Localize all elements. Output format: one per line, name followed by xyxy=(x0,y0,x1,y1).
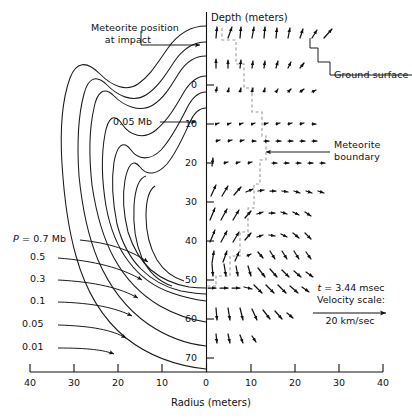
depth-tick-70: 70 xyxy=(185,352,197,363)
contour-leader-lines xyxy=(58,240,148,354)
vector-row-5 xyxy=(216,140,317,141)
contour-inner-b xyxy=(146,186,184,281)
depth-tick-20: 20 xyxy=(185,157,197,168)
velocity-scale-value: 20 km/sec xyxy=(313,315,387,327)
radius-tick-pos20: 20 xyxy=(289,377,301,388)
radius-tick-0: 0 xyxy=(203,377,209,388)
contour-inner-a xyxy=(134,176,172,286)
depth-tick-30: 30 xyxy=(185,196,197,207)
radius-tick-neg10: 10 xyxy=(156,377,168,388)
velocity-scale-title: Velocity scale: xyxy=(311,294,391,306)
depth-tick-50: 50 xyxy=(185,274,197,285)
contour-label-0-5: 0.5 xyxy=(30,251,45,262)
radius-tick-neg40: 40 xyxy=(24,377,36,388)
vector-row-10 xyxy=(212,251,311,263)
meteorite-position-label-line2: at impact xyxy=(91,34,151,45)
time-label: t = 3.44 msec xyxy=(311,282,391,294)
depth-tick-0: 0 xyxy=(191,79,197,90)
contour-label-0-7: PP = 0.7 Mb = 0.7 Mb xyxy=(13,233,66,244)
figure-canvas xyxy=(0,0,412,420)
contour-label-0-05: 0.05 xyxy=(22,318,44,329)
depth-axis-ticks xyxy=(207,85,215,358)
radius-tick-neg20: 20 xyxy=(112,377,124,388)
leader-0-01 xyxy=(58,348,114,354)
vector-row-11 xyxy=(212,264,313,277)
radius-tick-pos40: 40 xyxy=(377,377,389,388)
depth-tick-40: 40 xyxy=(185,235,197,246)
time-symbol: t xyxy=(317,282,321,293)
contour-label-0-3: 0.3 xyxy=(30,273,45,284)
contour-label-0-01: 0.01 xyxy=(22,341,44,352)
ground-surface-label: Ground surface xyxy=(334,69,408,80)
vector-row-13 xyxy=(216,308,293,320)
meteorite-boundary-label-line2: boundary xyxy=(334,151,380,162)
radius-axis-ticks xyxy=(30,364,383,372)
vector-row-2 xyxy=(216,59,304,68)
meteorite-boundary-dashed xyxy=(206,28,266,286)
leader-0-5 xyxy=(58,258,142,280)
vector-row-14 xyxy=(216,334,256,343)
depth-axis-title: Depth (meters) xyxy=(211,12,288,23)
vector-row-3 xyxy=(216,87,316,92)
vector-row-1 xyxy=(216,27,332,38)
meteorite-boundary-label-line1: Meteorite xyxy=(334,139,380,150)
contour-0-3 xyxy=(102,76,206,301)
leader-0-1 xyxy=(58,302,132,316)
vector-row-12 xyxy=(208,285,309,293)
meteorite-position-label-line1: Meteorite position xyxy=(91,22,151,33)
radius-tick-pos30: 30 xyxy=(333,377,345,388)
depth-tick-10: 10 xyxy=(185,118,197,129)
time-value: = 3.44 msec xyxy=(324,282,384,293)
radius-tick-neg30: 30 xyxy=(68,377,80,388)
meteorite-impact-figure: Meteorite position at impact Depth (mete… xyxy=(0,0,412,420)
vector-row-7 xyxy=(211,185,324,196)
depth-tick-60: 60 xyxy=(185,313,197,324)
vector-row-8 xyxy=(210,208,311,220)
contour-label-005mb-inner: 0.05 Mb xyxy=(113,116,152,127)
leader-0-3 xyxy=(58,280,138,298)
leader-0-05 xyxy=(58,325,126,338)
vector-row-6 xyxy=(212,158,325,166)
vector-row-9 xyxy=(210,230,311,242)
radius-axis-title: Radius (meters) xyxy=(171,397,251,408)
contour-label-0-1: 0.1 xyxy=(30,295,45,306)
radius-tick-pos10: 10 xyxy=(245,377,257,388)
vector-row-4 xyxy=(216,123,316,124)
